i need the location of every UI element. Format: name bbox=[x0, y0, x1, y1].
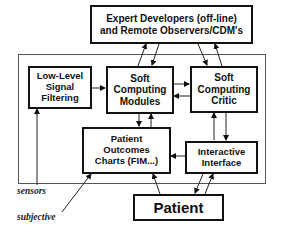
patient-outcomes-node: Patient Outcomes Charts (FIM...) bbox=[82, 127, 171, 174]
patient-node: Patient bbox=[133, 194, 224, 221]
soft-computing-critic-label: Soft Computing Critic bbox=[198, 72, 251, 107]
patient-outcomes-label: Patient Outcomes Charts (FIM...) bbox=[95, 134, 158, 167]
soft-computing-critic-node: Soft Computing Critic bbox=[190, 66, 258, 113]
soft-computing-modules-label: Soft Computing Modules bbox=[114, 73, 167, 108]
soft-computing-modules-node: Soft Computing Modules bbox=[106, 66, 174, 114]
sensors-input-label: sensors bbox=[17, 186, 46, 196]
expert-developers-label: Expert Developers (off-line) and Remote … bbox=[100, 13, 243, 36]
low-level-filtering-label: Low-Level Signal Filtering bbox=[37, 71, 83, 104]
interactive-interface-node: Interactive Interface bbox=[185, 141, 258, 174]
low-level-filtering-node: Low-Level Signal Filtering bbox=[28, 66, 92, 109]
interactive-interface-label: Interactive Interface bbox=[198, 147, 246, 169]
patient-label: Patient bbox=[153, 199, 203, 216]
subjective-input-label: subjective bbox=[17, 212, 56, 222]
expert-developers-node: Expert Developers (off-line) and Remote … bbox=[90, 5, 253, 44]
